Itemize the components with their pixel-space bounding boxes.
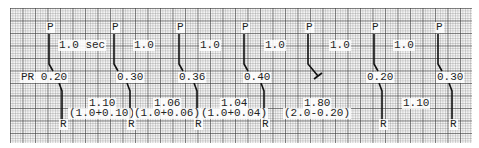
ecg-ladder-diagram: PRPR 0.20PR0.30PR0.36PR0.40PPR0.20PR0.30… [0, 0, 479, 148]
pp-interval-label: 1.0 [264, 40, 286, 51]
atrial-conduction-line [438, 34, 442, 71]
pr-interval-label: PR 0.20 [20, 72, 68, 83]
rr-interval-formula: (1.0+0.10) [68, 108, 136, 119]
atrial-conduction-line [374, 34, 378, 71]
pr-interval-label: 0.30 [436, 72, 464, 83]
r-wave-label: R [261, 119, 270, 130]
atrial-conduction-line [114, 34, 118, 71]
pr-interval-label: 0.40 [243, 72, 271, 83]
r-wave-label: R [194, 119, 203, 130]
pr-interval-label: 0.36 [178, 72, 206, 83]
rr-interval-formula: (1.0+0.04) [200, 108, 268, 119]
pp-interval-label: 1.0 [199, 40, 221, 51]
rr-interval-formula: (2.0-0.20) [283, 108, 351, 119]
atrial-conduction-line [49, 34, 53, 71]
r-wave-label: R [379, 119, 388, 130]
p-wave-label: P [435, 22, 444, 33]
p-wave-label: P [176, 22, 185, 33]
ventricular-conduction-line [449, 83, 452, 120]
blocked-conduction-line [308, 34, 318, 76]
r-wave-label: R [449, 119, 458, 130]
pp-interval-label: 1.0 [133, 40, 155, 51]
conduction-traces [0, 0, 479, 148]
atrial-conduction-line [244, 34, 248, 71]
ventricular-conduction-line [379, 83, 382, 120]
rr-interval-value: 1.10 [402, 98, 430, 109]
block-marker [314, 73, 322, 79]
pr-interval-label: 0.30 [116, 72, 144, 83]
p-wave-label: P [241, 22, 250, 33]
pp-interval-label: 1.0 [393, 40, 415, 51]
ventricular-conduction-line [59, 83, 62, 120]
rr-interval-formula: (1.0+0.06) [133, 108, 201, 119]
p-wave-label: P [46, 22, 55, 33]
pp-interval-label: 1.0 sec [58, 40, 106, 51]
atrial-conduction-line [179, 34, 183, 71]
r-wave-label: R [127, 119, 136, 130]
r-wave-label: R [59, 119, 68, 130]
p-wave-label: P [371, 22, 380, 33]
pr-interval-label: 0.20 [366, 72, 394, 83]
p-wave-label: P [111, 22, 120, 33]
pp-interval-label: 1.0 [329, 40, 351, 51]
p-wave-label: P [305, 22, 314, 33]
